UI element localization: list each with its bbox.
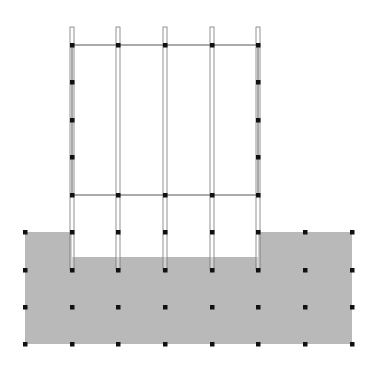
mesh-node: [163, 268, 168, 273]
mesh-node: [210, 43, 215, 48]
mesh-node: [256, 193, 261, 198]
diagram-canvas: [0, 0, 375, 368]
mesh-node: [163, 342, 168, 347]
mesh-node: [256, 268, 261, 273]
mesh-node: [70, 230, 75, 235]
mesh-node: [23, 268, 28, 273]
mesh-node: [116, 230, 121, 235]
mesh-node: [70, 305, 75, 310]
mesh-node: [116, 305, 121, 310]
mesh-node: [210, 342, 215, 347]
mesh-node: [210, 193, 215, 198]
mesh-node: [256, 342, 261, 347]
mesh-node: [70, 118, 75, 123]
mesh-node: [303, 230, 308, 235]
mesh-node: [163, 230, 168, 235]
mesh-node: [70, 193, 75, 198]
mesh-node: [116, 342, 121, 347]
mesh-node: [163, 193, 168, 198]
mesh-node: [303, 305, 308, 310]
mesh-node: [350, 342, 355, 347]
mesh-node: [116, 43, 121, 48]
mesh-node: [210, 268, 215, 273]
mesh-node: [256, 155, 261, 160]
mesh-node: [256, 43, 261, 48]
mesh-node: [256, 80, 261, 85]
mesh-node: [116, 193, 121, 198]
mesh-node: [210, 230, 215, 235]
mesh-node: [256, 118, 261, 123]
mesh-node: [350, 305, 355, 310]
mesh-node: [210, 305, 215, 310]
mesh-node: [350, 268, 355, 273]
mesh-node: [256, 230, 261, 235]
mesh-node: [23, 230, 28, 235]
mesh-node: [303, 342, 308, 347]
mesh-node: [303, 268, 308, 273]
mesh-node: [70, 268, 75, 273]
mesh-node: [163, 305, 168, 310]
mesh-node: [23, 342, 28, 347]
mesh-node: [70, 155, 75, 160]
structure-diagram: [0, 0, 375, 368]
mesh-node: [163, 43, 168, 48]
mesh-node: [116, 268, 121, 273]
mesh-node: [70, 342, 75, 347]
mesh-node: [70, 80, 75, 85]
mesh-node: [23, 305, 28, 310]
mesh-node: [350, 230, 355, 235]
mesh-node: [70, 43, 75, 48]
mesh-node: [256, 305, 261, 310]
